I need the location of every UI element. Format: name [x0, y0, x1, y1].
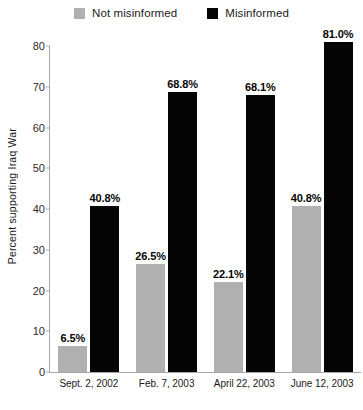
bar-value-label: 26.5% — [135, 250, 166, 262]
legend-label-misinformed: Misinformed — [225, 7, 289, 19]
y-axis-title-text: Percent supporting Iraq War — [6, 128, 18, 264]
y-tick-label: 20 — [33, 285, 45, 297]
bar-value-label: 68.8% — [167, 78, 198, 90]
bar-slot: 26.5% — [136, 46, 165, 372]
y-tick-label: 10 — [33, 325, 45, 337]
bar-value-label: 6.5% — [61, 332, 86, 344]
bar-not-misinformed[interactable] — [214, 282, 243, 372]
bar-misinformed[interactable] — [90, 206, 119, 372]
bar-value-label: 68.1% — [245, 81, 276, 93]
y-tick-label: 30 — [33, 244, 45, 256]
bar-slot: 40.8% — [90, 46, 119, 372]
bar-group: 26.5%68.8% — [128, 46, 206, 372]
bar-value-label: 40.8% — [291, 192, 322, 204]
legend-label-not-misinformed: Not misinformed — [92, 7, 177, 19]
bar-value-label: 81.0% — [323, 28, 354, 40]
y-tick-label: 80 — [33, 40, 45, 52]
bar-slot: 81.0% — [324, 46, 353, 372]
y-axis-title: Percent supporting Iraq War — [3, 0, 21, 410]
bar-slot: 40.8% — [292, 46, 321, 372]
bar-not-misinformed[interactable] — [58, 346, 87, 372]
bar-slot: 68.8% — [168, 46, 197, 372]
x-axis-labels: Sept. 2, 2002Feb. 7, 2003April 22, 2003J… — [50, 378, 361, 389]
bar-slot: 68.1% — [246, 46, 275, 372]
bar-group: 6.5%40.8% — [50, 46, 128, 372]
legend-item-misinformed: Misinformed — [207, 7, 289, 19]
bar-group: 40.8%81.0% — [283, 46, 361, 372]
y-tick-label: 0 — [39, 366, 45, 378]
bar-value-label: 22.1% — [213, 268, 244, 280]
chart-legend: Not misinformed Misinformed — [0, 7, 363, 19]
legend-item-not-misinformed: Not misinformed — [74, 7, 177, 19]
bar-misinformed[interactable] — [324, 42, 353, 372]
bar-chart: Not misinformed Misinformed Percent supp… — [0, 0, 363, 410]
y-tick-label: 60 — [33, 122, 45, 134]
bar-value-label: 40.8% — [90, 192, 121, 204]
bar-misinformed[interactable] — [168, 92, 197, 372]
x-axis-line — [49, 372, 361, 373]
bar-group: 22.1%68.1% — [206, 46, 284, 372]
bar-not-misinformed[interactable] — [292, 206, 321, 372]
legend-swatch-misinformed — [207, 8, 218, 19]
x-tick-label: Sept. 2, 2002 — [50, 378, 128, 389]
bar-not-misinformed[interactable] — [136, 264, 165, 372]
x-tick-label: April 22, 2003 — [206, 378, 284, 389]
legend-swatch-not-misinformed — [74, 8, 85, 19]
y-tick-label: 70 — [33, 81, 45, 93]
y-tick-label: 50 — [33, 162, 45, 174]
bar-slot: 6.5% — [58, 46, 87, 372]
bar-slot: 22.1% — [214, 46, 243, 372]
plot-area: 01020304050607080 6.5%40.8%26.5%68.8%22.… — [50, 46, 361, 372]
x-tick-label: June 12, 2003 — [283, 378, 361, 389]
bar-groups: 6.5%40.8%26.5%68.8%22.1%68.1%40.8%81.0% — [50, 46, 361, 372]
bar-misinformed[interactable] — [246, 95, 275, 373]
x-tick-label: Feb. 7, 2003 — [128, 378, 206, 389]
y-tick-label: 40 — [33, 203, 45, 215]
